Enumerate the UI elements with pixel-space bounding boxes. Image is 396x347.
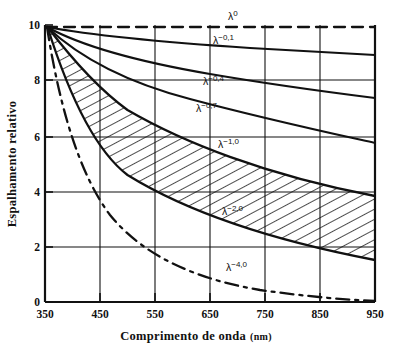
label-lambda-neg-2-0-exp: −2,0 <box>227 204 243 213</box>
y-axis-title: Espalhamento relativo <box>5 101 19 228</box>
x-tick-label-850: 850 <box>311 308 329 320</box>
label-lambda-0-exp: 0 <box>233 9 238 18</box>
x-tick-label-950: 950 <box>366 308 384 320</box>
y-tick-label-2: 2 <box>34 241 40 253</box>
x-axis-unit-text: (nm) <box>250 331 272 343</box>
y-tick-label-8: 8 <box>34 74 40 86</box>
label-lambda-neg-0-4-exp: −0,4 <box>208 74 224 83</box>
label-lambda-neg-0-7-exp: −0,7 <box>201 101 217 110</box>
y-tick-label-6: 6 <box>34 131 40 143</box>
x-tick-label-350: 350 <box>36 308 54 320</box>
x-axis-title: Comprimento de onda(nm) <box>120 329 272 343</box>
label-lambda-neg-4-0-exp: −4,0 <box>231 260 247 269</box>
x-tick-label-650: 650 <box>201 308 219 320</box>
y-tick-label-0: 0 <box>34 296 40 308</box>
x-axis-title-text: Comprimento de onda <box>120 329 246 343</box>
label-lambda-neg-1-0-exp: −1,0 <box>223 137 239 146</box>
chart-svg: 10 8 6 4 2 0 350 450 550 650 750 850 950… <box>0 0 396 347</box>
label-lambda-neg-0-1-exp: −0,1 <box>218 33 234 42</box>
y-tick-label-10: 10 <box>29 19 41 31</box>
x-tick-label-550: 550 <box>146 308 164 320</box>
x-tick-label-450: 450 <box>91 308 109 320</box>
x-tick-label-750: 750 <box>256 308 274 320</box>
scattering-vs-wavelength-chart: 10 8 6 4 2 0 350 450 550 650 750 850 950… <box>0 0 396 347</box>
y-tick-label-4: 4 <box>34 186 40 198</box>
